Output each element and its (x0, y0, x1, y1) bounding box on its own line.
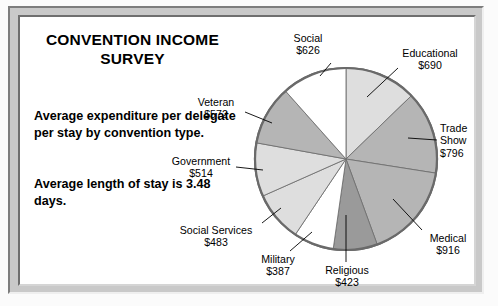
slice-label-military-name: Military (261, 253, 295, 265)
slice-label-social-name: Social (294, 32, 323, 44)
slice-label-social-amount: $626 (268, 44, 348, 56)
slice-label-military-amount: $387 (246, 265, 310, 277)
slice-label-military: Military $387 (246, 253, 310, 278)
slice-label-trade-show: Trade Show $796 (440, 122, 496, 159)
slice-label-veteran-name: Veteran (198, 96, 235, 108)
slice-label-educational: Educational $690 (385, 47, 475, 72)
title-line-1: CONVENTION INCOME (46, 31, 219, 48)
note-paragraph: Average length of stay is 3.48 days. (34, 176, 244, 210)
title-line-2: SURVEY (30, 49, 235, 68)
slice-label-medical: Medical $916 (413, 232, 483, 257)
slice-label-social-services-name: Social Services (180, 224, 252, 236)
slice-label-veteran: Veteran $572 (186, 96, 246, 121)
slice-label-trade-show-name2: Show (440, 134, 496, 146)
slice-label-veteran-amount: $572 (186, 108, 246, 120)
slice-label-medical-name: Medical (430, 232, 467, 244)
slice-label-educational-name: Educational (402, 47, 457, 59)
chart-page: CONVENTION INCOME SURVEY Average expendi… (0, 0, 498, 306)
slice-label-religious-amount: $423 (311, 276, 383, 288)
slice-label-religious: Religious $423 (311, 264, 383, 289)
slice-label-social-services-amount: $483 (168, 236, 264, 248)
slice-label-social: Social $626 (268, 32, 348, 57)
slice-label-government: Government $514 (164, 155, 238, 180)
slice-label-religious-name: Religious (325, 264, 369, 276)
slice-label-trade-show-name: Trade (440, 122, 467, 134)
slice-label-medical-amount: $916 (413, 244, 483, 256)
slice-label-trade-show-amount: $796 (440, 147, 496, 159)
page-title: CONVENTION INCOME SURVEY (30, 30, 235, 68)
slice-label-social-services: Social Services $483 (168, 224, 264, 249)
slice-label-government-name: Government (172, 155, 230, 167)
slice-label-government-amount: $514 (164, 167, 238, 179)
slice-label-educational-amount: $690 (385, 59, 475, 71)
